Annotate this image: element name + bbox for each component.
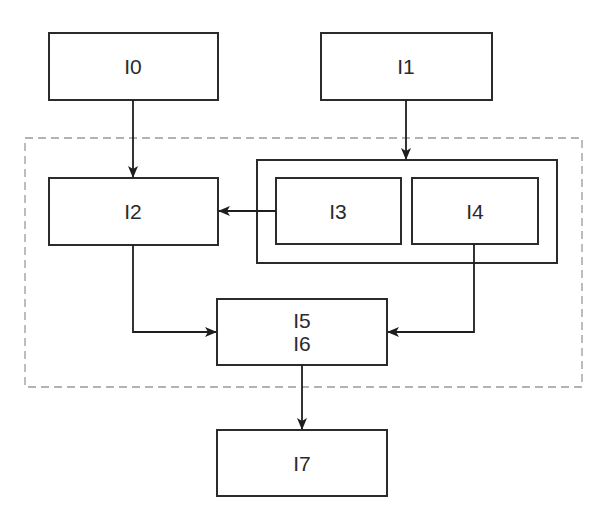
node-i3[interactable]: I3: [276, 178, 401, 244]
node-i5-i6[interactable]: I5 I6: [217, 299, 387, 365]
block-diagram: I0 I1 I2 I3 I4 I5 I6 I7: [0, 0, 601, 517]
node-i7-label: I7: [293, 452, 311, 475]
node-i7[interactable]: I7: [217, 430, 387, 496]
node-i2-label: I2: [124, 200, 142, 223]
node-i4[interactable]: I4: [412, 178, 538, 244]
node-i3-label: I3: [329, 200, 347, 223]
node-i4-label: I4: [466, 200, 484, 223]
edge-i4-to-i5: [388, 244, 474, 332]
node-i0-label: I0: [124, 55, 142, 78]
edge-i2-to-i5: [133, 245, 216, 332]
node-i0[interactable]: I0: [49, 33, 218, 100]
node-i5-label: I5: [293, 309, 311, 332]
node-i1[interactable]: I1: [321, 33, 492, 100]
node-i6-label: I6: [293, 332, 311, 355]
node-i2[interactable]: I2: [49, 178, 218, 245]
node-i1-label: I1: [397, 55, 415, 78]
